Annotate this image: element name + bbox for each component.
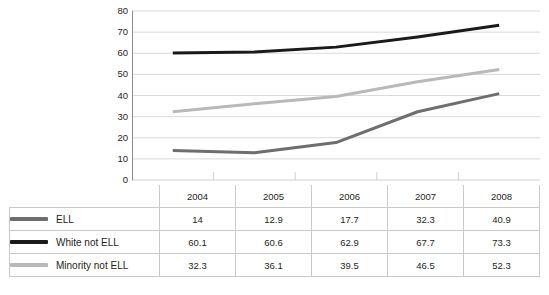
y-axis-tick-labels: 01020304050607080 [108,5,128,186]
series-line-ell [173,94,499,153]
table-row: Minority not ELL32.336.139.546.552.3 [10,254,540,277]
column-header-2008: 2008 [464,185,540,208]
column-header-2007: 2007 [388,185,464,208]
y-tick-label: 10 [108,154,128,164]
chart-figure: 01020304050607080 20042005200620072008 E… [0,0,549,295]
table-row: White not ELL60.160.662.967.773.3 [10,231,540,254]
data-cell: 67.7 [388,231,464,254]
y-tick-label: 0 [108,175,128,185]
legend-swatch-icon [10,217,48,221]
legend-cell: Minority not ELL [10,254,160,277]
table-body: ELL1412.917.732.340.9White not ELL60.160… [10,208,540,277]
data-table: 20042005200620072008 ELL1412.917.732.340… [9,185,540,277]
legend-label: White not ELL [56,237,119,248]
data-cell: 62.9 [312,231,388,254]
y-tick-label: 60 [108,48,128,58]
y-tick-label: 20 [108,133,128,143]
y-tick-label: 40 [108,91,128,101]
legend-label: Minority not ELL [56,260,128,271]
line-chart-plot [132,5,540,186]
data-cell: 40.9 [464,208,540,231]
data-cell: 32.3 [160,254,236,277]
table-row: ELL1412.917.732.340.9 [10,208,540,231]
table-header: 20042005200620072008 [10,185,540,208]
data-cell: 46.5 [388,254,464,277]
y-tick-label: 70 [108,27,128,37]
table-header-row: 20042005200620072008 [10,185,540,208]
y-tick-label: 50 [108,69,128,79]
column-header-2005: 2005 [236,185,312,208]
data-cell: 12.9 [236,208,312,231]
data-cell: 17.7 [312,208,388,231]
series-line-white-not-ell [173,25,499,53]
line-chart-svg [132,5,540,186]
legend-cell: ELL [10,208,160,231]
data-cell: 36.1 [236,254,312,277]
data-cell: 52.3 [464,254,540,277]
column-header-2006: 2006 [312,185,388,208]
legend-cell: White not ELL [10,231,160,254]
data-cell: 73.3 [464,231,540,254]
table-corner-cell [10,185,160,208]
legend-swatch-icon [10,263,48,267]
y-tick-label: 80 [108,6,128,16]
legend-swatch-icon [10,240,48,244]
data-cell: 60.1 [160,231,236,254]
legend-label: ELL [56,214,74,225]
column-header-2004: 2004 [160,185,236,208]
y-tick-label: 30 [108,112,128,122]
data-cell: 39.5 [312,254,388,277]
data-cell: 14 [160,208,236,231]
data-cell: 60.6 [236,231,312,254]
data-cell: 32.3 [388,208,464,231]
